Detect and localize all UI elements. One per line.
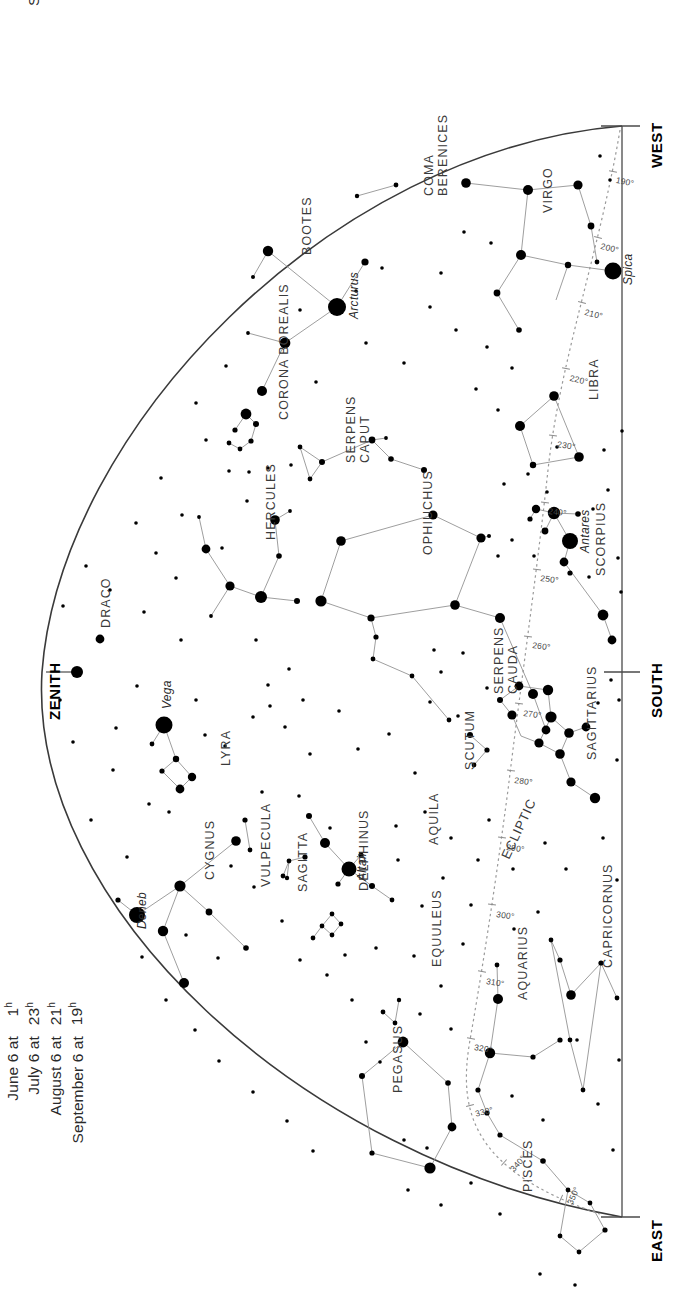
constellation-label-line: CAPUT	[358, 396, 372, 463]
constellation-label-line: CAUDA	[506, 627, 520, 694]
star-arcturus	[328, 298, 346, 316]
constellation-label-cygnus: CYGNUS	[203, 820, 217, 880]
constellation-label-hercules: HERCULES	[264, 463, 278, 540]
legend-date-label: August 6 at	[46, 1036, 66, 1116]
legend-time-value: 21h	[45, 1002, 67, 1036]
constellation-label-scorpius: SCORPIUS	[594, 502, 608, 576]
constellation-label-serpens-cauda: SERPENSCAUDA	[492, 627, 520, 694]
cardinal-zenith: ZENITH	[46, 662, 63, 720]
star-label-vega: Vega	[160, 680, 174, 709]
legend-bottom-row: August 6 at 21h	[45, 1002, 67, 1252]
legend-time-value: 23h	[23, 1002, 45, 1036]
horizon-frame	[41, 126, 640, 1217]
legend-date-label: September 21 at	[24, 0, 44, 6]
legend-bottom-row: July 6 at 23h	[23, 1002, 45, 1252]
constellation-label-line: SERPENS	[344, 396, 358, 463]
star-label-antares: Antares	[578, 510, 592, 553]
constellation-label-draco: DRACO	[99, 577, 113, 628]
star-label-deneb: Deneb	[135, 892, 149, 929]
legend-time-value: 1h	[2, 1002, 24, 1036]
constellation-label-line: SERPENS	[492, 627, 506, 694]
constellation-label-pegasus: PEGASUS	[391, 1025, 405, 1093]
constellation-label-ophiuchus: OPHIUCHUS	[421, 470, 435, 555]
constellation-label-pisces: PISCES	[521, 1140, 535, 1192]
constellation-label-corona-borealis: CORONA BOREALIS	[277, 283, 291, 420]
constellation-label-vulpecula: VULPECULA	[259, 803, 273, 887]
constellation-label-serpens-caput: SERPENSCAPUT	[344, 396, 372, 463]
star-chart-root: COMABERENICESVIRGOBOOTESLIBRACORONA BORE…	[0, 0, 694, 1310]
legend-hour-superscript: h	[24, 1002, 35, 1008]
constellation-label-line: COMA	[422, 114, 436, 196]
cardinal-south: SOUTH	[648, 663, 665, 719]
star-label-arcturus: Arcturus	[347, 272, 361, 319]
star-label-spica: Spica	[621, 253, 635, 285]
legend-bottom-row: September 6 at 19h	[66, 1002, 88, 1252]
constellation-label-equuleus: EQUULEUS	[430, 889, 444, 967]
star-field	[58, 154, 624, 1287]
constellation-label-line: BERENICES	[436, 114, 450, 196]
constellation-label-aquila: AQUILA	[427, 793, 441, 845]
constellation-label-sagitta: SAGITTA	[296, 832, 310, 892]
constellation-label-lyra: LYRA	[219, 730, 233, 766]
cardinal-west: WEST	[648, 122, 665, 168]
constellation-label-bootes: BOOTES	[300, 196, 314, 255]
star-label-altair: Altair	[355, 852, 369, 881]
legend-bottom-dates: May 6 at 3hJune 6 at 1hJuly 6 at 23hAugu…	[0, 1002, 88, 1252]
legend-hour-superscript: h	[3, 1002, 14, 1008]
legend-hour-superscript: h	[67, 1002, 78, 1008]
ecliptic-degree-label: 270°	[523, 708, 543, 720]
constellation-label-libra: LIBRA	[587, 358, 601, 400]
legend-date-label: September 6 at	[68, 1036, 88, 1143]
legend-date-label: July 6 at	[24, 1036, 44, 1095]
legend-time-value: 19h	[66, 1002, 88, 1036]
star-antares	[562, 533, 578, 549]
legend-hour-superscript: h	[46, 1002, 57, 1008]
legend-top-row: August 21 at 20h	[2, 0, 24, 106]
constellation-label-virgo: VIRGO	[541, 167, 555, 213]
star-spica	[605, 263, 622, 280]
constellation-label-capricornus: CAPRICORNUS	[601, 864, 615, 968]
horizon-arc	[41, 126, 622, 1217]
constellation-label-coma-berenices: COMABERENICES	[422, 114, 450, 196]
legend-bottom-row: June 6 at 1h	[2, 1002, 24, 1252]
ecliptic-degree-label: 300°	[495, 909, 515, 922]
cardinal-east: EAST	[648, 1220, 665, 1262]
sky-map-svg	[0, 0, 694, 1310]
constellation-label-sagittarius: SAGITTARIUS	[585, 665, 599, 760]
legend-top-row: September 21 at 18h	[23, 0, 45, 106]
legend-top-dates: May 21 at 2hJune 21 at midnightJuly 21 a…	[0, 0, 45, 106]
ecliptic-degree-label: 280°	[514, 775, 533, 787]
star-vega	[156, 717, 173, 734]
constellation-label-aquarius: AQUARIUS	[516, 926, 530, 1000]
legend-date-label: June 6 at	[3, 1036, 23, 1101]
constellation-label-scutum: SCUTUM	[463, 710, 477, 770]
ecliptic-degree-label: 310°	[485, 976, 505, 989]
